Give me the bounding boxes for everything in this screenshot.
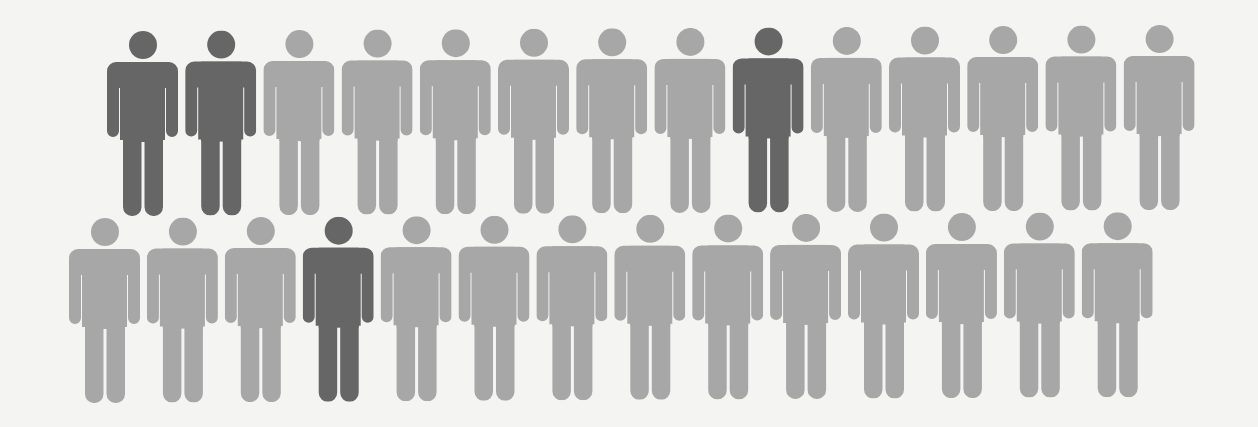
person-icon [420,29,491,214]
figures-group [69,25,1195,403]
person-icon [926,213,997,398]
person-icon [381,216,452,401]
person-icon [576,28,647,213]
person-icon-highlighted [107,31,178,216]
pictogram-canvas [0,0,1258,427]
person-icon [1045,26,1116,211]
person-icon [342,30,413,215]
person-icon [1004,213,1075,398]
person-icon [1124,25,1195,210]
person-icon [770,214,841,399]
person-icon-highlighted [185,31,256,216]
person-icon [536,215,607,400]
person-icon [498,29,569,214]
person-icon [614,215,685,400]
person-icon [654,28,725,213]
person-icon [69,218,140,403]
person-icon [225,217,296,402]
person-icon [692,214,763,399]
pictogram-chart [0,0,1258,427]
person-icon-highlighted [733,27,804,212]
person-icon [889,27,960,212]
person-icon [147,218,218,403]
person-icon [811,27,882,212]
person-icon [1082,212,1153,397]
person-icon [848,214,919,399]
person-icon [967,26,1038,211]
person-icon [459,216,530,401]
person-icon [263,30,334,215]
person-icon-highlighted [303,217,374,402]
